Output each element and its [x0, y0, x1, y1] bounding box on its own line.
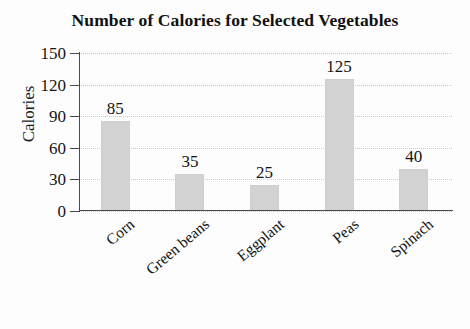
x-tick-label: Spinach [387, 216, 435, 260]
y-tick-label: 30 [20, 171, 66, 188]
plot-area [79, 53, 452, 211]
chart-page: Number of Calories for Selected Vegetabl… [0, 0, 470, 329]
y-tick-label: 150 [20, 45, 66, 62]
x-tick-label: Eggplant [234, 216, 287, 264]
gridline [79, 85, 452, 86]
x-tick-label: Peas [329, 216, 361, 246]
x-axis-line [79, 210, 453, 211]
chart-title: Number of Calories for Selected Vegetabl… [0, 10, 470, 31]
y-axis-line [79, 52, 80, 212]
y-tick-mark [70, 116, 79, 117]
bar [101, 121, 130, 211]
bar-value-label: 40 [384, 148, 444, 165]
y-tick-mark [70, 179, 79, 180]
y-tick-label: 120 [20, 77, 66, 94]
bar-value-label: 125 [309, 58, 369, 75]
x-tick-label: Green beans [143, 216, 212, 277]
y-tick-mark [70, 148, 79, 149]
y-tick-label: 0 [20, 203, 66, 220]
y-tick-mark [70, 211, 79, 212]
y-tick-mark [70, 53, 79, 54]
y-tick-label: 90 [20, 108, 66, 125]
y-tick-mark [70, 85, 79, 86]
gridline [79, 211, 452, 212]
bar-value-label: 85 [85, 100, 145, 117]
x-tick-label: Corn [104, 216, 138, 248]
bar [325, 79, 354, 211]
bar [250, 185, 279, 211]
bar [175, 174, 204, 211]
bar [399, 169, 428, 211]
bar-value-label: 25 [235, 164, 295, 181]
y-tick-label: 60 [20, 140, 66, 157]
gridline [79, 53, 452, 54]
bar-value-label: 35 [160, 153, 220, 170]
